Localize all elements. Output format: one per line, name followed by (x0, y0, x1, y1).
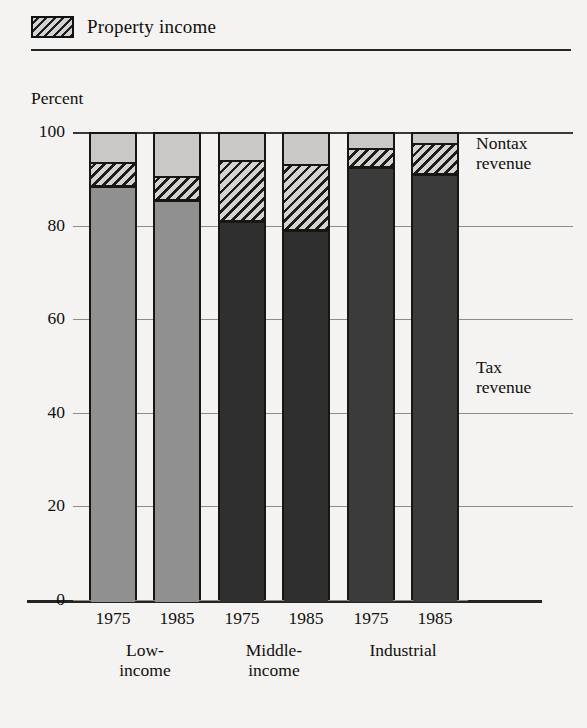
bar-segment-nontax-revenue (155, 134, 199, 176)
bar-segment-property-income (155, 176, 199, 202)
bar-stack (218, 132, 266, 600)
bar-segment-tax-revenue (349, 169, 393, 602)
bar-segment-nontax-revenue (220, 134, 264, 160)
y-axis-tick-label-60: 60 (21, 308, 65, 329)
bar-segment-tax-revenue (91, 188, 135, 602)
hatch-swatch-icon (31, 16, 74, 38)
bar-segment-tax-revenue (220, 223, 264, 602)
x-axis-year-label: 1975 (83, 608, 143, 629)
y-axis-tick-label-100: 100 (21, 121, 65, 142)
x-axis-year-label: 1985 (276, 608, 336, 629)
y-axis-tick-label-80: 80 (21, 215, 65, 236)
annotation-nontax-line1: Nontax (476, 134, 531, 154)
chart-legend: Property income (31, 16, 216, 38)
bar-segment-property-income (413, 143, 457, 176)
bar-stack (89, 132, 137, 600)
bar-stack (153, 132, 201, 600)
bar-segment-nontax-revenue (349, 134, 393, 148)
bar-segment-nontax-revenue (91, 134, 135, 162)
bar-segment-property-income (284, 164, 328, 232)
annotation-nontax-revenue: Nontax revenue (476, 134, 531, 173)
annotation-tax-revenue: Tax revenue (476, 358, 531, 397)
x-axis-year-label: 1985 (405, 608, 465, 629)
x-axis-group-label-line1: Low- (75, 641, 215, 661)
bar-segment-tax-revenue (284, 232, 328, 602)
x-axis-group-label-line1: Middle- (204, 641, 344, 661)
bar-stack (347, 132, 395, 600)
x-axis-group-label-line2: income (204, 661, 344, 681)
x-axis-group-label: Low-income (75, 641, 215, 680)
gridline-extension-80 (468, 226, 573, 227)
bar-segment-nontax-revenue (284, 134, 328, 164)
gridline-extension-40 (468, 413, 573, 414)
gridline-extension-20 (468, 506, 573, 507)
bar-stack (282, 132, 330, 600)
x-axis-year-label: 1985 (147, 608, 207, 629)
x-axis-group-label: Middle-income (204, 641, 344, 680)
bar-segment-property-income (349, 148, 393, 169)
bar-segment-tax-revenue (413, 176, 457, 602)
x-axis-group-label: Industrial (333, 641, 473, 661)
gridline-extension-60 (468, 319, 573, 320)
y-axis-tick-label-40: 40 (21, 402, 65, 423)
legend-item-label: Property income (87, 16, 216, 38)
bar-stack (411, 132, 459, 600)
x-axis-year-label: 1975 (341, 608, 401, 629)
annotation-nontax-line2: revenue (476, 154, 531, 174)
bar-segment-property-income (91, 162, 135, 188)
y-axis-tick-label-0: 0 (21, 589, 65, 610)
x-axis-year-label: 1975 (212, 608, 272, 629)
bar-segment-property-income (220, 160, 264, 223)
x-axis-group-label-line2: income (75, 661, 215, 681)
chart-plot-area: 100806040200 (73, 132, 468, 600)
bar-segment-nontax-revenue (413, 134, 457, 143)
y-axis-tick-label-20: 20 (21, 495, 65, 516)
legend-divider (31, 49, 571, 51)
annotation-tax-line1: Tax (476, 358, 531, 378)
bar-segment-tax-revenue (155, 202, 199, 602)
annotation-tax-line2: revenue (476, 378, 531, 398)
x-axis-group-label-line1: Industrial (333, 641, 473, 661)
y-axis-title: Percent (31, 88, 83, 109)
